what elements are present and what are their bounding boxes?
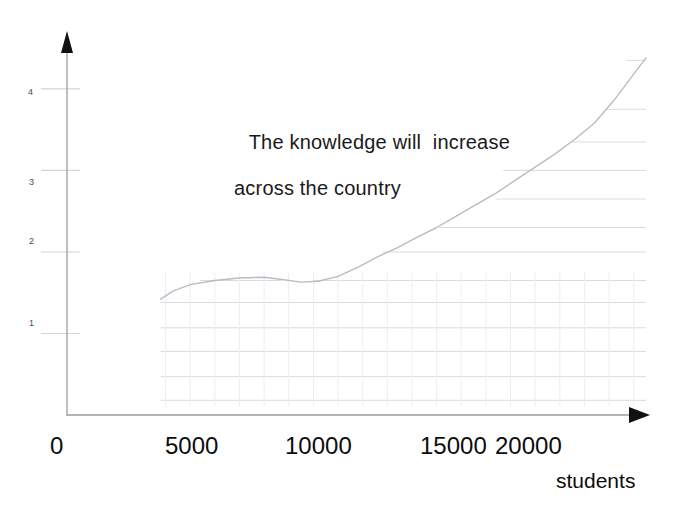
y-tick-label-3: 3 <box>29 177 34 187</box>
x-tick-label-10000: 10000 <box>285 432 352 460</box>
chart-title-line-2: across the country <box>226 177 510 200</box>
y-axis-ticks <box>41 89 80 334</box>
x-tick-label-5000: 5000 <box>165 432 218 460</box>
y-tick-label-1: 1 <box>29 318 34 328</box>
x-axis-arrow-icon <box>629 407 650 423</box>
x-axis <box>67 407 650 423</box>
y-tick-label-2: 2 <box>29 236 34 246</box>
y-tick-label-4: 4 <box>28 87 33 97</box>
x-tick-label-20000: 20000 <box>495 432 562 460</box>
gridlines-vertical <box>166 272 634 407</box>
x-tick-label-0: 0 <box>50 432 63 460</box>
x-axis-title: students <box>556 469 635 493</box>
chart-title: The knowledge will increase across the c… <box>226 108 510 246</box>
chart-title-line-1: The knowledge will increase <box>249 131 510 153</box>
y-axis-arrow-icon <box>61 31 73 53</box>
chart-page: The knowledge will increase across the c… <box>0 0 686 527</box>
gridlines-horizontal-full <box>161 303 646 401</box>
x-tick-label-15000: 15000 <box>420 432 487 460</box>
